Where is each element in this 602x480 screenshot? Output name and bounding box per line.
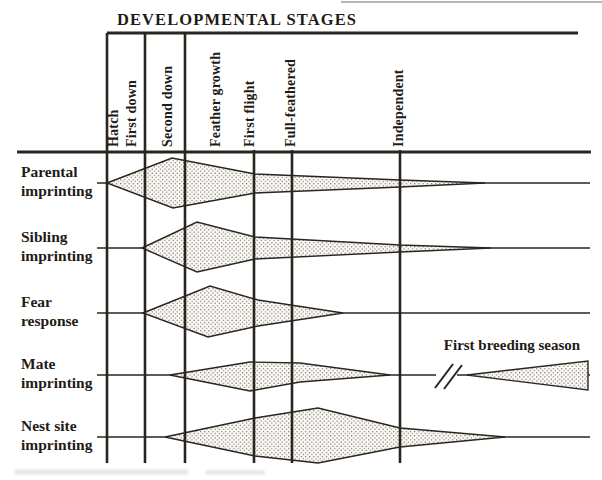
scan-artifacts [14, 469, 265, 475]
row-label-nest-site-imprinting-line1: Nest site [21, 417, 77, 434]
fear-response-period [143, 286, 343, 337]
row-label-nest-site-imprinting-line2: imprinting [21, 436, 93, 453]
row-label-sibling-imprinting-line1: Sibling [21, 228, 68, 245]
row-label-fear-response-line1: Fear [21, 293, 52, 310]
row-label-mate-imprinting-line1: Mate [21, 355, 56, 372]
axis-break-mark [435, 364, 453, 388]
stage-label-first-down: First down [124, 80, 139, 147]
stage-label-feather-growth: Feather growth [208, 52, 223, 147]
stage-label-independent: Independent [391, 69, 406, 147]
axis-break-mark [444, 365, 462, 389]
figure-labels: DEVELOPMENTAL STAGES First breeding seas… [21, 10, 581, 453]
first-breeding-season-label: First breeding season [444, 337, 581, 353]
stage-label-full-feathered: Full-feathered [283, 59, 298, 147]
scan-artifact-caption-ghost [14, 469, 189, 475]
stage-label-first-flight: First flight [242, 80, 257, 147]
sibling-imprinting-period [142, 222, 491, 272]
mate-imprinting-early-period [170, 362, 390, 391]
scan-artifact-caption-ghost [205, 470, 265, 475]
mate-imprinting-breeding-period [467, 361, 588, 390]
row-label-mate-imprinting-line2: imprinting [21, 374, 93, 391]
row-label-sibling-imprinting-line2: imprinting [21, 247, 93, 264]
row-label-parental-imprinting-line1: Parental [21, 163, 78, 180]
stage-label-second-down: Second down [160, 66, 175, 147]
nest-site-imprinting-period [165, 408, 505, 463]
row-label-fear-response-line2: response [21, 312, 79, 329]
stage-label-hatch: Hatch [106, 109, 121, 147]
figure-title: DEVELOPMENTAL STAGES [117, 10, 357, 29]
parental-imprinting-period [107, 158, 485, 208]
figure-canvas: DEVELOPMENTAL STAGES First breeding seas… [0, 0, 602, 480]
critical-period-shapes [107, 158, 588, 463]
row-label-parental-imprinting-line2: imprinting [21, 182, 93, 199]
